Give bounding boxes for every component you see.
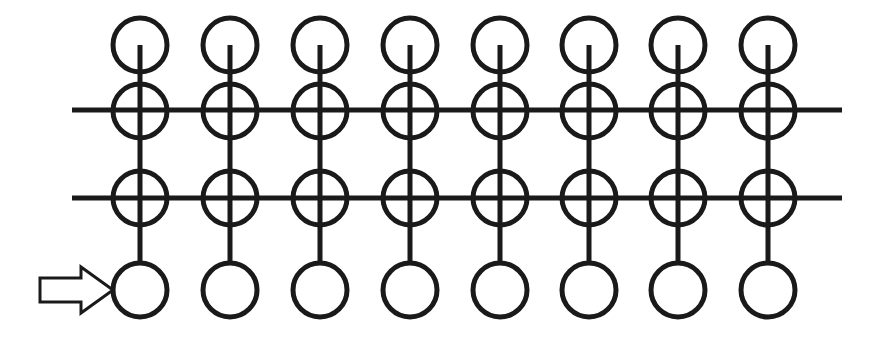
- lattice-diagram: [0, 0, 876, 345]
- lattice-svg: [0, 0, 876, 345]
